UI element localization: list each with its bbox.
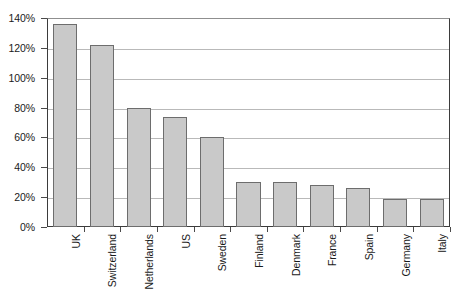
x-tick-label: Netherlands xyxy=(143,234,155,290)
x-tick-mark xyxy=(267,227,268,232)
x-tick-label: Spain xyxy=(363,234,375,260)
bar-chart-figure: 0%20%40%60%80%100%120%140% UKSwitzerland… xyxy=(0,0,464,308)
x-tick-mark xyxy=(303,227,304,232)
x-tick-mark xyxy=(450,227,451,232)
x-tick-label: France xyxy=(326,234,338,266)
x-tick-label: Italy xyxy=(436,234,448,253)
x-tick-label: Sweden xyxy=(216,234,228,271)
x-tick-mark xyxy=(377,227,378,232)
x-tick-mark xyxy=(194,227,195,232)
x-tick-label: US xyxy=(180,234,192,248)
x-tick-mark xyxy=(157,227,158,232)
x-tick-mark xyxy=(413,227,414,232)
x-tick-label: Germany xyxy=(400,234,412,276)
x-tick-label: UK xyxy=(70,234,82,248)
x-tick-label: Denmark xyxy=(290,234,302,276)
x-tick-mark xyxy=(120,227,121,232)
x-axis: UKSwitzerlandNetherlandsUSSwedenFinlandD… xyxy=(0,0,464,308)
caption-ghost xyxy=(8,299,428,306)
x-tick-mark xyxy=(230,227,231,232)
x-tick-mark xyxy=(84,227,85,232)
x-tick-label: Switzerland xyxy=(106,234,118,287)
x-tick-mark xyxy=(340,227,341,232)
x-tick-label: Finland xyxy=(253,234,265,268)
